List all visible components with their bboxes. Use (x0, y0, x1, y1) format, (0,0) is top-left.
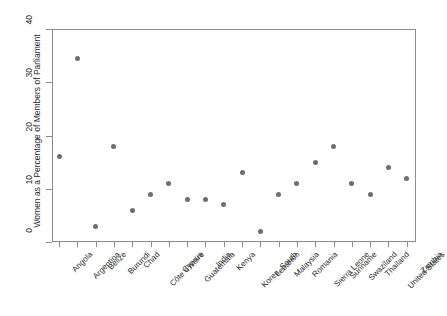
data-point (203, 197, 208, 202)
x-tick (279, 242, 280, 247)
x-tick (96, 242, 97, 247)
y-tick-10 (46, 189, 52, 190)
data-point (93, 224, 98, 229)
data-point (75, 56, 80, 61)
data-point (331, 144, 336, 149)
x-tick (77, 242, 78, 247)
x-tick (407, 242, 408, 247)
plot-area (52, 29, 416, 242)
y-tick-40 (46, 29, 52, 30)
x-tick (352, 242, 353, 247)
data-point (368, 192, 373, 197)
y-tick-label-10: 10 (24, 175, 34, 201)
y-tick-20 (46, 136, 52, 137)
data-point (276, 192, 281, 197)
y-tick-label-30: 30 (24, 68, 34, 94)
data-point (148, 192, 153, 197)
y-tick-label-0: 0 (24, 228, 34, 254)
data-point (130, 208, 135, 213)
x-tick (151, 242, 152, 247)
y-tick-label-40: 40 (24, 15, 34, 41)
x-tick (205, 242, 206, 247)
x-tick (388, 242, 389, 247)
data-point (258, 229, 263, 234)
x-tick (224, 242, 225, 247)
x-tick-label: Belize (106, 250, 128, 272)
data-point (313, 160, 318, 165)
data-point (57, 154, 62, 159)
x-tick-label: Cyprus (180, 250, 204, 274)
x-tick (169, 242, 170, 247)
x-tick (315, 242, 316, 247)
x-tick (334, 242, 335, 247)
data-point (240, 170, 245, 175)
x-tick-label: Kenya (234, 250, 256, 272)
x-tick-label: Angola (70, 250, 94, 274)
data-point (386, 165, 391, 170)
y-tick-0 (46, 242, 52, 243)
x-tick (260, 242, 261, 247)
x-tick (242, 242, 243, 247)
y-tick-label-20: 20 (24, 122, 34, 148)
x-tick (132, 242, 133, 247)
x-tick (370, 242, 371, 247)
y-tick-30 (46, 82, 52, 83)
data-point (404, 176, 409, 181)
data-point (185, 197, 190, 202)
x-tick (297, 242, 298, 247)
x-tick (59, 242, 60, 247)
x-tick (187, 242, 188, 247)
x-tick (114, 242, 115, 247)
